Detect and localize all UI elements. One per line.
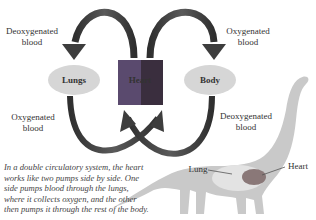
caption-line: where it collects oxygen, and the other: [4, 194, 209, 205]
dino-heart-label: Heart: [283, 161, 313, 172]
label-line: blood: [4, 123, 62, 134]
label-bottom-left: Oxygenated blood: [4, 112, 62, 134]
label-line: Deoxygenated: [2, 26, 62, 37]
caption-line: then pumps it through the rest of the bo…: [4, 204, 209, 215]
caption-line: side pumps blood through the lungs,: [4, 183, 209, 194]
label-line: Oxygenated: [218, 26, 278, 37]
arrow-heart-to-body: [150, 12, 214, 58]
caption-line: In a double circulatory system, the hear…: [4, 162, 209, 173]
heart-node-label: Heart: [129, 75, 152, 85]
label-line: blood: [218, 37, 278, 48]
caption: In a double circulatory system, the hear…: [4, 162, 209, 215]
label-line: Oxygenated: [4, 112, 62, 123]
dino-heart-shape: [242, 169, 266, 185]
label-line: Deoxygenated: [214, 111, 278, 122]
arrowhead-down-icon: [62, 44, 86, 60]
label-top-right: Oxygenated blood: [218, 26, 278, 48]
caption-line: works like two pumps side by side. One: [4, 173, 209, 184]
label-top-left: Deoxygenated blood: [2, 26, 62, 48]
arrow-heart-to-lungs: [75, 12, 134, 58]
label-line: blood: [2, 37, 62, 48]
label-bottom-right: Deoxygenated blood: [214, 111, 278, 133]
label-line: blood: [214, 122, 278, 133]
body-node-label: Body: [200, 75, 221, 85]
lungs-node-label: Lungs: [62, 75, 87, 85]
